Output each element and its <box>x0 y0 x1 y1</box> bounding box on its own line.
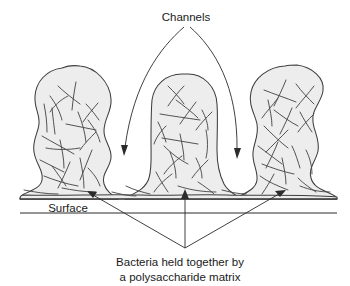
biofilm-matrix-group <box>20 65 337 199</box>
biofilm-diagram-svg: Channels Surface Bacteria held together … <box>0 0 350 286</box>
matrix-caption-line1: Bacteria held together by <box>116 256 244 268</box>
matrix-caption-line2: a polysaccharide matrix <box>120 271 241 283</box>
surface-label: Surface <box>48 202 88 214</box>
channel-arrowhead-right <box>234 148 241 159</box>
matrix-leader-left <box>93 195 185 248</box>
matrix-leader-right <box>185 194 279 248</box>
biofilm-base-shelf <box>20 195 337 199</box>
colony-middle <box>125 74 242 199</box>
colony-left <box>20 66 118 199</box>
diagram-canvas: Channels Surface Bacteria held together … <box>0 0 350 286</box>
channel-arrowhead-left <box>121 145 128 156</box>
channels-label: Channels <box>162 11 211 23</box>
colony-right <box>237 65 337 199</box>
